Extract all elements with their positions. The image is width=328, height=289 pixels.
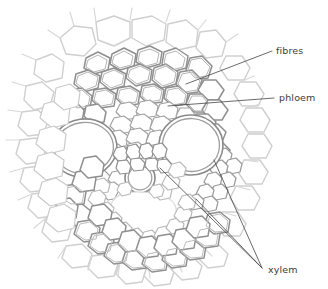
label-phloem: phloem [279, 92, 316, 103]
cross-section-svg: fibres phloem xylem [0, 0, 328, 289]
label-xylem: xylem [268, 264, 298, 275]
label-fibres: fibres [276, 45, 303, 56]
vascular-bundle-figure: fibres phloem xylem [0, 0, 328, 289]
